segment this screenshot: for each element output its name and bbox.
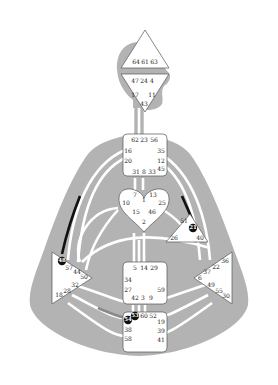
gate-62[interactable]: 62 bbox=[131, 136, 139, 143]
gate-3[interactable]: 3 bbox=[141, 294, 145, 301]
gate-36[interactable]: 36 bbox=[221, 257, 229, 264]
gate-9[interactable]: 9 bbox=[149, 294, 153, 301]
gate-31[interactable]: 31 bbox=[132, 168, 140, 175]
gate-33[interactable]: 33 bbox=[148, 168, 156, 175]
gate-29[interactable]: 29 bbox=[150, 264, 158, 271]
gate-38[interactable]: 38 bbox=[124, 326, 132, 333]
gate-21[interactable]: 21 bbox=[189, 224, 197, 230]
gate-39[interactable]: 39 bbox=[157, 327, 165, 334]
gate-5[interactable]: 5 bbox=[133, 264, 137, 271]
gate-51[interactable]: 51 bbox=[180, 217, 188, 224]
gate-61[interactable]: 61 bbox=[141, 58, 149, 65]
gate-27[interactable]: 27 bbox=[124, 286, 132, 293]
gate-58[interactable]: 58 bbox=[124, 335, 132, 342]
bodygraph: 64 61 63 47 24 4 17 11 43 62 23 56 16 35… bbox=[0, 0, 278, 385]
gate-26[interactable]: 26 bbox=[170, 234, 178, 241]
gate-2[interactable]: 2 bbox=[142, 218, 146, 225]
root-center[interactable]: 54 53 60 52 19 38 39 58 41 bbox=[123, 312, 167, 352]
gate-10[interactable]: 10 bbox=[122, 199, 130, 206]
gate-50[interactable]: 50 bbox=[80, 273, 88, 280]
gate-49[interactable]: 49 bbox=[207, 281, 215, 288]
gate-37[interactable]: 37 bbox=[203, 268, 211, 275]
gate-17[interactable]: 17 bbox=[131, 91, 139, 98]
gate-57[interactable]: 57 bbox=[65, 264, 73, 271]
gate-4[interactable]: 4 bbox=[150, 77, 154, 84]
gate-19[interactable]: 19 bbox=[157, 318, 165, 325]
gate-15[interactable]: 15 bbox=[132, 208, 140, 215]
gate-64[interactable]: 64 bbox=[132, 58, 140, 65]
gate-11[interactable]: 11 bbox=[148, 91, 156, 98]
gate-23[interactable]: 23 bbox=[140, 136, 148, 143]
gate-25[interactable]: 25 bbox=[158, 199, 166, 206]
gate-53[interactable]: 53 bbox=[131, 312, 139, 318]
gate-20[interactable]: 20 bbox=[124, 157, 132, 164]
gate-30[interactable]: 30 bbox=[222, 292, 230, 299]
gate-48[interactable]: 48 bbox=[58, 257, 66, 263]
sacral-center[interactable]: 5 14 29 34 27 59 42 3 9 bbox=[123, 262, 167, 304]
gate-43[interactable]: 43 bbox=[140, 100, 148, 107]
gate-47[interactable]: 47 bbox=[131, 77, 139, 84]
gate-8[interactable]: 8 bbox=[142, 168, 146, 175]
gate-24[interactable]: 24 bbox=[140, 77, 148, 84]
gate-56[interactable]: 56 bbox=[150, 136, 158, 143]
gate-46[interactable]: 46 bbox=[148, 208, 156, 215]
gate-16[interactable]: 16 bbox=[124, 147, 132, 154]
gate-13[interactable]: 13 bbox=[149, 191, 157, 198]
gate-40[interactable]: 40 bbox=[196, 234, 204, 241]
gate-18[interactable]: 18 bbox=[55, 291, 63, 298]
gate-42[interactable]: 42 bbox=[131, 294, 139, 301]
gate-59[interactable]: 59 bbox=[157, 286, 165, 293]
gate-60[interactable]: 60 bbox=[140, 312, 148, 319]
gate-45[interactable]: 45 bbox=[157, 165, 165, 172]
gate-32[interactable]: 32 bbox=[71, 281, 79, 288]
gate-12[interactable]: 12 bbox=[157, 157, 165, 164]
gate-35[interactable]: 35 bbox=[157, 147, 165, 154]
gate-52[interactable]: 52 bbox=[149, 312, 157, 319]
gate-6[interactable]: 6 bbox=[198, 274, 202, 281]
gate-41[interactable]: 41 bbox=[157, 336, 165, 343]
throat-center[interactable]: 62 23 56 16 35 20 12 31 8 33 45 bbox=[123, 134, 167, 176]
gate-14[interactable]: 14 bbox=[140, 264, 148, 271]
gate-1[interactable]: 1 bbox=[142, 196, 146, 203]
gate-22[interactable]: 22 bbox=[212, 263, 220, 270]
gate-63[interactable]: 63 bbox=[150, 58, 158, 65]
gate-28[interactable]: 28 bbox=[63, 287, 71, 294]
gate-34[interactable]: 34 bbox=[124, 276, 132, 283]
gate-7[interactable]: 7 bbox=[133, 191, 137, 198]
